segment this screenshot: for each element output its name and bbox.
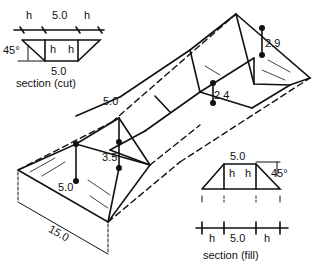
cut-inner-h-2: h	[68, 44, 74, 55]
cut-depth-2-label: 2.4	[214, 90, 229, 101]
fill-dim-h-left: h	[209, 233, 215, 244]
cut-dim-h-right: h	[84, 10, 90, 21]
cut-inner-h-1: h	[50, 44, 56, 55]
section-cut-drawing	[14, 27, 104, 61]
isometric-drawing	[18, 14, 310, 254]
section-cut-caption: section (cut)	[16, 78, 76, 89]
cut-angle: 45°	[3, 45, 20, 56]
fill-height-2-label: 5.0	[58, 182, 73, 193]
fill-height-1-label: 3.5	[102, 152, 117, 163]
cut-dim-h-left: h	[26, 10, 32, 21]
diagram-canvas: h 5.0 h 45° h h 5.0 section (cut) 5.0 2.…	[0, 0, 317, 271]
fill-dim-h-right: h	[264, 233, 270, 244]
fill-inner-h-2: h	[245, 168, 251, 179]
cut-bottom-width: 5.0	[51, 66, 66, 77]
fill-inner-h-1: h	[229, 168, 235, 179]
fill-top-width: 5.0	[230, 151, 245, 162]
road-width-label: 5.0	[103, 96, 118, 107]
fill-angle: 45°	[271, 168, 288, 179]
cut-dim-width: 5.0	[52, 10, 67, 21]
cut-depth-1-label: 2.9	[265, 38, 280, 49]
fill-dim-width: 5.0	[230, 233, 245, 244]
section-fill-caption: section (fill)	[203, 250, 259, 261]
